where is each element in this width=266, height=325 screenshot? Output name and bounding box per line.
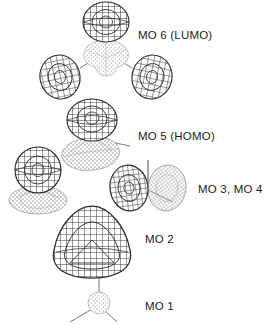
- mo34-left-lobe-dark: [15, 147, 61, 193]
- orbital-mo1: [70, 278, 117, 322]
- mo1-core-sphere: [88, 292, 110, 314]
- orbital-mo34: [107, 160, 189, 213]
- mo6-center-light-lobe: [84, 40, 129, 76]
- orbital-mo5: [62, 99, 130, 170]
- mo2-label: MO 2: [145, 234, 174, 246]
- mo6-label: MO 6 (LUMO): [138, 30, 212, 42]
- orbital-mo2: [53, 206, 130, 278]
- mo5-label: MO 5 (HOMO): [138, 131, 215, 143]
- mo34-lobe-right-light: [145, 163, 189, 214]
- mo5-lobe-top-dark: [67, 99, 117, 141]
- orbital-mo6: [36, 2, 176, 103]
- mo5-lobe-bottom-light: [62, 137, 120, 171]
- mo1-label: MO 1: [145, 301, 174, 313]
- mo34-label: MO 3, MO 4: [198, 184, 263, 196]
- mo34-lobe-left-dark: [107, 163, 151, 214]
- orbital-canvas: [0, 0, 266, 325]
- orbital-mo34-left: [9, 147, 67, 214]
- mo-figure: MO 6 (LUMO) MO 5 (HOMO) MO 3, MO 4 MO 2 …: [0, 0, 266, 325]
- mo6-lobe-left: [36, 51, 84, 102]
- mo6-lobe-top: [83, 2, 129, 42]
- mo6-lobe-right: [128, 51, 176, 102]
